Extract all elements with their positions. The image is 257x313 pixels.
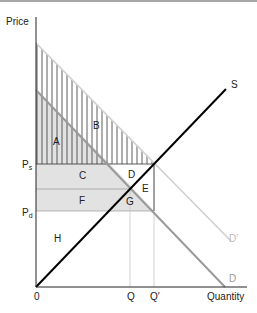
area-f-label: F <box>79 195 85 206</box>
area-b-label: B <box>93 120 100 131</box>
supply-label: S <box>231 79 238 90</box>
subsidy-diagram: Price Quantity 0 Ps Pd Q Q′ S D D′ A B C… <box>0 0 257 313</box>
origin-label: 0 <box>34 291 40 302</box>
y-axis-label: Price <box>6 16 29 27</box>
ps-label: Ps <box>22 159 33 171</box>
area-a-label: A <box>53 136 60 147</box>
area-h-label: H <box>54 233 61 244</box>
area-c-label: C <box>79 170 86 181</box>
area-cdfg-fill <box>36 164 154 211</box>
x-axis-label: Quantity <box>207 291 244 302</box>
q-prime-label: Q′ <box>150 291 160 302</box>
demand-label: D <box>229 273 236 284</box>
area-g-label: G <box>126 196 134 207</box>
area-d-label: D <box>128 169 135 180</box>
area-e-label: E <box>142 183 149 194</box>
q-label: Q <box>127 291 135 302</box>
demand-shifted-label: D′ <box>229 233 238 244</box>
pd-label: Pd <box>22 207 33 219</box>
